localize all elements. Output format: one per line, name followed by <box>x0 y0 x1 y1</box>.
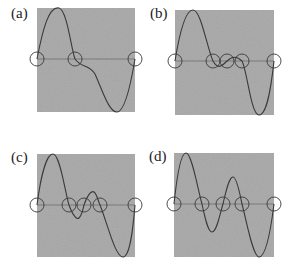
panel-b <box>168 10 281 115</box>
panel-d <box>167 153 281 257</box>
panel-a <box>30 8 142 112</box>
panel-c <box>30 154 142 257</box>
panel-texture <box>37 8 135 112</box>
panel-label-c: (c) <box>11 150 28 165</box>
panel-texture <box>37 154 135 257</box>
figure-canvas <box>0 0 289 270</box>
panel-texture <box>175 10 274 115</box>
panel-label-d: (d) <box>149 149 167 164</box>
panel-label-a: (a) <box>11 6 28 21</box>
panel-texture <box>174 153 274 257</box>
panel-label-b: (b) <box>150 6 168 21</box>
